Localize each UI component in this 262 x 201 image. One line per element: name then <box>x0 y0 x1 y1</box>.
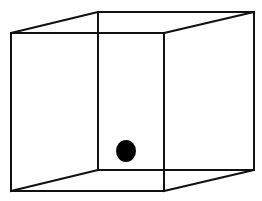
cube-edge-front-bottom-left-to-back-bottom-left <box>11 170 98 191</box>
cube-edge-front-top-right-to-back-top-right <box>164 12 254 33</box>
filled-dot <box>116 140 136 162</box>
cube-edge-front-bottom-right-to-back-bottom-right <box>164 170 254 191</box>
cube-edges <box>11 12 254 191</box>
wireframe-cube-diagram <box>0 0 262 201</box>
cube-edge-front-top-left-to-back-top-left <box>11 12 98 33</box>
diagram-canvas <box>0 0 262 201</box>
